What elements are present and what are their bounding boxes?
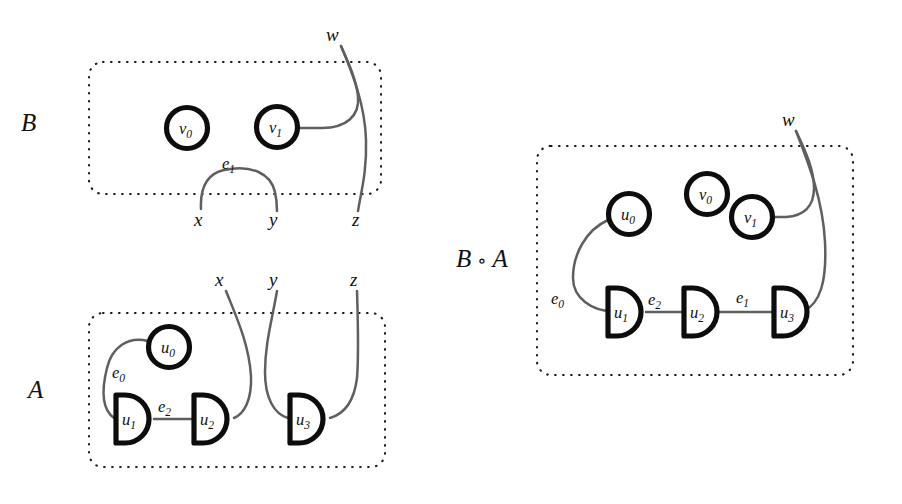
panel-b-label: B xyxy=(21,109,36,136)
node-u1-composite-sub: 1 xyxy=(622,312,628,324)
edge-e2-a-label: e2 xyxy=(158,397,171,418)
port-w-b-label: w xyxy=(326,24,339,45)
panel-composite: B∘A u0 xyxy=(456,109,853,375)
node-v1-composite-sub: 1 xyxy=(751,217,757,229)
port-y-a-label: y xyxy=(267,269,278,290)
edge-e1-b-label: e1 xyxy=(222,154,235,175)
wire-w-to-v1 xyxy=(299,46,358,128)
composition-operator-icon: ∘ xyxy=(477,250,486,271)
edge-e0-a-base: e xyxy=(112,363,119,382)
node-u1-a-base: u xyxy=(122,410,130,429)
node-v1-b: v1 xyxy=(257,107,298,148)
node-u1-composite: u1 xyxy=(608,288,641,336)
edge-e2-a-sub: 2 xyxy=(165,406,171,418)
node-u0-composite-base: u xyxy=(621,205,629,224)
panel-composite-label-a: A xyxy=(491,245,509,272)
port-x-a-label: x xyxy=(214,269,224,290)
wire-w-to-u3-composite xyxy=(796,131,825,311)
node-u0-a-sub: 0 xyxy=(169,347,175,359)
port-y-b-label: y xyxy=(267,209,278,230)
node-u3-composite: u3 xyxy=(774,288,807,336)
node-u1-a-sub: 1 xyxy=(130,419,136,431)
node-v1-b-sub: 1 xyxy=(276,127,282,139)
node-v0-composite: v0 xyxy=(687,174,728,215)
node-u2-a: u2 xyxy=(194,395,227,443)
node-u2-composite-sub: 2 xyxy=(698,312,704,324)
node-u2-composite-base: u xyxy=(690,303,698,322)
node-u0-composite: u0 xyxy=(609,194,650,235)
wire-x-to-u2 xyxy=(226,291,251,418)
edge-e1-composite-label: e1 xyxy=(736,288,749,309)
figure-root: B v0 v1 xyxy=(0,0,902,504)
panel-a: A u0 u1 xyxy=(26,269,385,467)
node-u3-composite-base: u xyxy=(780,303,788,322)
edge-e1-b-sub: 1 xyxy=(229,163,235,175)
edge-e2-composite-sub: 2 xyxy=(655,299,661,311)
composition-diagram: B v0 v1 xyxy=(0,0,902,504)
node-u2-a-sub: 2 xyxy=(208,419,214,431)
edge-e2-composite-base: e xyxy=(648,290,655,309)
edge-e0-composite-base: e xyxy=(551,289,558,308)
wire-z-to-u3 xyxy=(330,291,358,418)
node-u0-composite-sub: 0 xyxy=(629,214,635,226)
edge-e1-composite-base: e xyxy=(736,288,743,307)
panel-composite-label: B∘A xyxy=(456,245,509,272)
port-w-composite-label: w xyxy=(782,109,795,130)
node-u1-composite-base: u xyxy=(614,303,622,322)
edge-e1-b-base: e xyxy=(222,154,229,173)
panel-b: B v0 v1 xyxy=(21,24,381,230)
wire-w-to-z xyxy=(341,46,366,211)
panel-a-label: A xyxy=(26,376,44,403)
node-v0-composite-sub: 0 xyxy=(706,194,712,206)
edge-e0-composite-label: e0 xyxy=(551,289,564,310)
port-z-b-label: z xyxy=(351,209,360,230)
node-u3-a: u3 xyxy=(290,395,323,443)
node-u3-a-base: u xyxy=(296,410,304,429)
node-v0-b-sub: 0 xyxy=(186,128,192,140)
node-v1-composite: v1 xyxy=(732,197,773,238)
node-u3-a-sub: 3 xyxy=(303,419,310,431)
edge-e0-composite-sub: 0 xyxy=(558,298,564,310)
node-u2-a-base: u xyxy=(200,410,208,429)
edge-e1-composite-sub: 1 xyxy=(743,297,749,309)
node-v0-b: v0 xyxy=(167,108,208,149)
node-u3-composite-sub: 3 xyxy=(787,312,794,324)
panel-composite-label-b: B xyxy=(456,245,471,272)
node-u0-a: u0 xyxy=(149,327,190,368)
port-z-a-label: z xyxy=(349,269,358,290)
port-x-b-label: x xyxy=(193,209,203,230)
edge-e0-a-label: e0 xyxy=(112,363,125,384)
node-u1-a: u1 xyxy=(116,395,149,443)
edge-e2-a-base: e xyxy=(158,397,165,416)
node-u2-composite: u2 xyxy=(684,288,717,336)
node-u0-a-base: u xyxy=(161,338,169,357)
edge-e2-composite-label: e2 xyxy=(648,290,661,311)
wire-e1-arc xyxy=(201,168,277,211)
edge-e0-a-sub: 0 xyxy=(119,372,125,384)
wire-w-to-v1-composite xyxy=(773,131,814,217)
wire-y-to-u3 xyxy=(265,291,288,418)
